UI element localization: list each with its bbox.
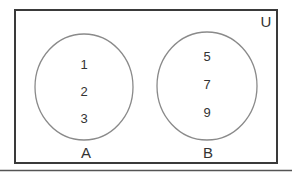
venn-diagram: U 1 2 3 A 5 7 9 B [0,0,292,172]
set-b-element: 9 [203,105,210,120]
set-a-element: 1 [80,57,87,72]
set-a-element: 2 [80,84,87,99]
set-a-label: A [81,144,91,161]
set-a-element: 3 [80,111,87,126]
universe-rectangle [15,10,277,163]
universe-label: U [261,13,272,30]
set-b-label: B [203,144,213,161]
set-b-element: 5 [203,49,210,64]
set-b-element: 7 [203,77,210,92]
